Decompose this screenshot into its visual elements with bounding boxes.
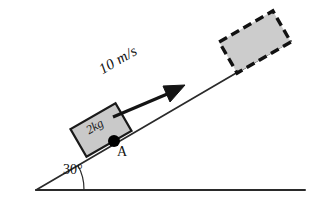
block-dashed: [219, 11, 291, 73]
diagram-canvas: [0, 0, 311, 202]
block-dashed-body: [219, 11, 291, 73]
point-a-label: A: [117, 145, 127, 159]
arrow-up-right-icon: [113, 85, 185, 117]
angle-label: 30°: [63, 163, 83, 177]
physics-incline-diagram: 10 m/s 2kg A 30°: [0, 0, 311, 202]
